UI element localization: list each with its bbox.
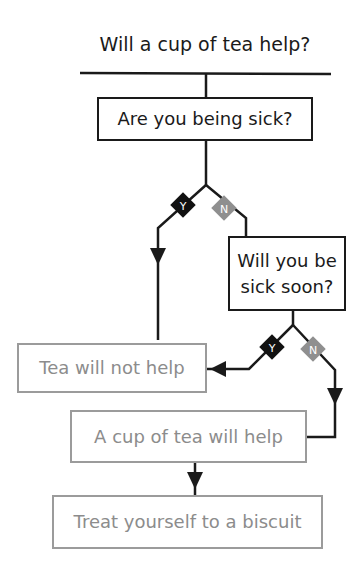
svg-text:Y: Y: [268, 342, 276, 355]
arrow-left-icon: [210, 361, 226, 377]
node-label: Are you being sick?: [117, 106, 292, 132]
node-label-line1: Will you be: [237, 248, 336, 274]
svg-text:N: N: [220, 203, 228, 216]
arrow-down-icon: [150, 248, 166, 265]
arrow-down-icon: [187, 472, 203, 489]
node-cup-of-tea-will-help: A cup of tea will help: [70, 410, 307, 463]
node-label: A cup of tea will help: [94, 424, 283, 450]
node-label-line2: sick soon?: [241, 274, 334, 300]
node-label: Treat yourself to a biscuit: [74, 509, 302, 535]
no-diamond-q2: N: [300, 336, 325, 361]
node-label: Tea will not help: [39, 355, 184, 381]
no-diamond-q1: N: [211, 195, 236, 220]
node-will-you-be-sick-soon: Will you be sick soon?: [228, 236, 346, 311]
node-are-you-being-sick: Are you being sick?: [97, 97, 313, 141]
arrow-down-icon: [327, 388, 343, 405]
flowchart-title: Will a cup of tea help?: [60, 33, 350, 55]
node-treat-yourself-biscuit: Treat yourself to a biscuit: [52, 495, 323, 549]
svg-text:Y: Y: [179, 200, 187, 213]
node-tea-will-not-help: Tea will not help: [17, 343, 207, 393]
svg-text:N: N: [309, 344, 317, 357]
